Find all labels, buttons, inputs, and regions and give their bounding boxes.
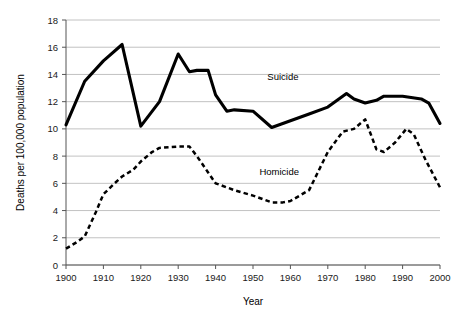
y-axis: 024681012141618 — [47, 15, 66, 271]
data-series-group — [66, 45, 440, 249]
x-tick-label: 2000 — [429, 272, 450, 283]
x-tick-label: 1950 — [242, 272, 263, 283]
x-tick-label: 1940 — [205, 272, 226, 283]
x-tick-label: 1980 — [355, 272, 376, 283]
x-tick-label: 1920 — [130, 272, 151, 283]
series-line-suicide — [66, 45, 440, 128]
x-tick-label: 1970 — [317, 272, 338, 283]
x-tick-label: 1930 — [168, 272, 189, 283]
x-axis: 1900191019201930194019501960197019801990… — [55, 265, 450, 283]
series-label-suicide: Suicide — [267, 71, 298, 82]
mortality-rates-line-chart: 024681012141618 190019101920193019401950… — [0, 0, 461, 316]
y-tick-label: 6 — [53, 178, 58, 189]
y-tick-labels: 024681012141618 — [47, 15, 58, 271]
y-axis-title: Deaths per 100,000 population — [15, 74, 26, 211]
y-tick-label: 12 — [47, 96, 58, 107]
x-tick-label: 1900 — [55, 272, 76, 283]
y-tick-label: 18 — [47, 15, 58, 26]
y-tick-label: 16 — [47, 42, 58, 53]
y-tick-label: 4 — [53, 205, 58, 216]
x-tick-labels: 1900191019201930194019501960197019801990… — [55, 272, 450, 283]
gridlines-group — [66, 20, 440, 265]
y-tick-label: 14 — [47, 69, 58, 80]
y-tick-label: 2 — [53, 232, 58, 243]
y-tick-label: 10 — [47, 123, 58, 134]
chart-container: 024681012141618 190019101920193019401950… — [0, 0, 461, 316]
series-label-homicide: Homicide — [259, 166, 299, 177]
x-tick-label: 1990 — [392, 272, 413, 283]
x-tick-marks — [66, 265, 440, 269]
x-axis-title: Year — [243, 296, 264, 307]
y-tick-label: 0 — [53, 260, 58, 271]
x-tick-label: 1960 — [280, 272, 301, 283]
y-tick-marks — [62, 20, 66, 265]
y-tick-label: 8 — [53, 151, 58, 162]
series-line-homicide — [66, 119, 440, 248]
x-tick-label: 1910 — [93, 272, 114, 283]
